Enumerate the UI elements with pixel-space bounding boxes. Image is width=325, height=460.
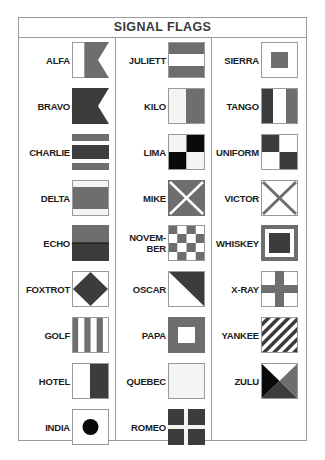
flag-whiskey-icon [261, 225, 298, 261]
flag-label: OSCAR [133, 271, 166, 307]
flag-cell-victor: VICTOR [212, 180, 307, 224]
flag-quebec-icon [168, 363, 205, 399]
flag-cell-charlie: CHARLIE [19, 134, 115, 178]
flag-charlie-icon [72, 134, 109, 170]
flag-cell-sierra: SIERRA [212, 42, 307, 86]
flag-cell-zulu: ZULU [212, 363, 307, 407]
flag-delta-icon [72, 180, 109, 216]
flag-alfa-icon [72, 42, 109, 78]
flag-label: LIMA [144, 134, 166, 170]
flag-foxtrot-icon [72, 271, 109, 307]
flag-cell-oscar: OSCAR [115, 271, 211, 315]
flag-cell-india: INDIA [19, 409, 115, 453]
flag-label: ALFA [46, 42, 70, 78]
flag-victor-icon [261, 180, 298, 216]
flag-cell-golf: GOLF [19, 317, 115, 361]
flag-cell-delta: DELTA [19, 180, 115, 224]
flag-kilo-icon [168, 88, 205, 124]
flag-label: VICTOR [224, 180, 259, 216]
flag-mike-icon [168, 180, 205, 216]
chart-title: SIGNAL FLAGS [19, 18, 306, 38]
flag-november-icon [168, 225, 205, 261]
flag-lima-icon [168, 134, 205, 170]
flag-label: ZULU [234, 363, 259, 399]
flag-cell-quebec: QUEBEC [115, 363, 211, 407]
flag-cell-bravo: BRAVO [19, 88, 115, 132]
flag-papa-icon [168, 317, 205, 353]
flag-cell-lima: LIMA [115, 134, 211, 178]
flag-cell-alfa: ALFA [19, 42, 115, 86]
flag-label: GOLF [44, 317, 70, 353]
flag-cell-november: NOVEM- BER [115, 225, 211, 269]
flag-cell-yankee: YANKEE [212, 317, 307, 361]
flag-oscar-icon [168, 271, 205, 307]
flag-label: NOVEM- BER [129, 225, 166, 261]
flag-cell-papa: PAPA [115, 317, 211, 361]
flag-xray-icon [261, 271, 298, 307]
flag-label: MIKE [143, 180, 166, 216]
flag-label: FOXTROT [26, 271, 70, 307]
column-j-r: JULIETTKILOLIMAMIKENOVEM- BEROSCARPAPAQU… [115, 37, 212, 440]
flag-india-icon [72, 409, 109, 445]
flag-cell-romeo: ROMEO [115, 409, 211, 453]
column-s-z: SIERRATANGOUNIFORMVICTORWHISKEYX-RAYYANK… [212, 37, 307, 440]
flag-label: X-RAY [231, 271, 259, 307]
flag-juliett-icon [168, 42, 205, 78]
flag-label: CHARLIE [29, 134, 70, 170]
flag-zulu-icon [261, 363, 298, 399]
flag-label: JULIETT [129, 42, 166, 78]
flag-label: ECHO [43, 225, 70, 261]
flag-tango-icon [261, 88, 298, 124]
flag-cell-mike: MIKE [115, 180, 211, 224]
flag-romeo-icon [168, 409, 205, 445]
flag-label: DELTA [41, 180, 70, 216]
flag-label: BRAVO [37, 88, 70, 124]
flag-label: WHISKEY [216, 225, 259, 261]
flag-cell-kilo: KILO [115, 88, 211, 132]
flag-cell-uniform: UNIFORM [212, 134, 307, 178]
flag-hotel-icon [72, 363, 109, 399]
flag-label: KILO [144, 88, 166, 124]
flag-label: UNIFORM [216, 134, 259, 170]
flag-label: TANGO [226, 88, 259, 124]
flag-sierra-icon [261, 42, 298, 78]
flag-echo-icon [72, 225, 109, 261]
flag-label: YANKEE [221, 317, 259, 353]
column-a-i: ALFABRAVOCHARLIEDELTAECHOFOXTROTGOLFHOTE… [19, 37, 116, 440]
flag-yankee-icon [261, 317, 298, 353]
flag-cell-hotel: HOTEL [19, 363, 115, 407]
flag-label: SIERRA [224, 42, 259, 78]
flag-label: PAPA [142, 317, 166, 353]
flag-uniform-icon [261, 134, 298, 170]
flag-label: ROMEO [131, 409, 166, 445]
flag-cell-xray: X-RAY [212, 271, 307, 315]
flag-bravo-icon [72, 88, 109, 124]
flag-label: INDIA [45, 409, 70, 445]
flag-cell-juliett: JULIETT [115, 42, 211, 86]
flag-label: QUEBEC [127, 363, 166, 399]
flag-cell-tango: TANGO [212, 88, 307, 132]
flag-cell-echo: ECHO [19, 225, 115, 269]
flag-label: HOTEL [39, 363, 70, 399]
flag-cell-foxtrot: FOXTROT [19, 271, 115, 315]
flag-golf-icon [72, 317, 109, 353]
signal-flags-chart: SIGNAL FLAGS ALFABRAVOCHARLIEDELTAECHOFO… [18, 17, 307, 441]
flag-cell-whiskey: WHISKEY [212, 225, 307, 269]
